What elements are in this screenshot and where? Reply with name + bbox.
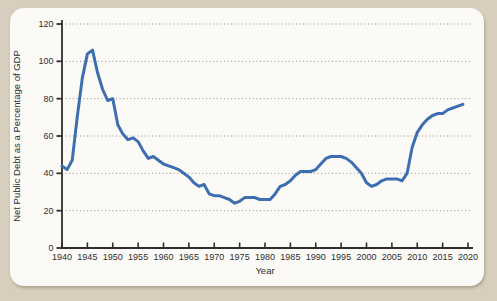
x-tick-label-1940: 1940 bbox=[52, 252, 72, 262]
y-tick-label-20: 20 bbox=[43, 206, 53, 216]
x-tick-label-1995: 1995 bbox=[331, 252, 351, 262]
y-tick-label-120: 120 bbox=[38, 19, 53, 29]
x-axis-title: Year bbox=[255, 265, 274, 276]
y-tick-label-40: 40 bbox=[43, 168, 53, 178]
x-tick-label-1975: 1975 bbox=[230, 252, 250, 262]
debt-line-series bbox=[62, 50, 463, 203]
x-tick-label-2015: 2015 bbox=[433, 252, 453, 262]
x-tick-label-1970: 1970 bbox=[204, 252, 224, 262]
x-tick-label-2005: 2005 bbox=[382, 252, 402, 262]
x-tick-label-1965: 1965 bbox=[179, 252, 199, 262]
x-tick-label-1950: 1950 bbox=[103, 252, 123, 262]
x-tick-label-2020: 2020 bbox=[458, 252, 478, 262]
x-tick-label-1955: 1955 bbox=[128, 252, 148, 262]
y-tick-label-100: 100 bbox=[38, 56, 53, 66]
x-tick-label-2010: 2010 bbox=[407, 252, 427, 262]
tick-marks bbox=[57, 24, 469, 248]
x-tick-label-1985: 1985 bbox=[280, 252, 300, 262]
x-tick-label-2000: 2000 bbox=[356, 252, 376, 262]
y-tick-label-60: 60 bbox=[43, 131, 53, 141]
x-tick-labels: 1940194519501955196019651970197519801985… bbox=[52, 252, 478, 262]
x-tick-label-1945: 1945 bbox=[77, 252, 97, 262]
y-tick-labels: 020406080100120 bbox=[38, 19, 53, 253]
y-tick-label-80: 80 bbox=[43, 94, 53, 104]
y-axis-title: Net Public Debt as a Percentage of GDP bbox=[11, 50, 22, 222]
chart-svg: 020406080100120 194019451950195519601965… bbox=[0, 0, 497, 301]
gridlines bbox=[62, 24, 470, 211]
x-tick-label-1960: 1960 bbox=[153, 252, 173, 262]
x-tick-label-1980: 1980 bbox=[255, 252, 275, 262]
x-tick-label-1990: 1990 bbox=[306, 252, 326, 262]
